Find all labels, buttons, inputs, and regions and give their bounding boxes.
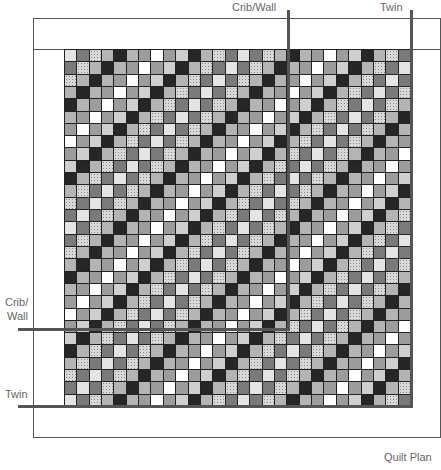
quilt-block [349,124,360,135]
quilt-block [349,222,360,233]
quilt-block [324,148,335,159]
quilt-block [300,62,311,73]
quilt-block [337,161,348,172]
quilt-block [263,50,274,61]
quilt-block [399,321,410,332]
quilt-block [151,173,162,184]
quilt-block [151,136,162,147]
quilt-block [127,75,138,86]
quilt-block [324,222,335,233]
quilt-block [189,136,200,147]
quilt-block [238,210,249,221]
quilt-block [127,222,138,233]
quilt-block [324,136,335,147]
quilt-block [349,136,360,147]
quilt-block [349,296,360,307]
quilt-block [77,247,88,258]
quilt-block [201,173,212,184]
quilt-block [127,272,138,283]
quilt-block [201,247,212,258]
quilt-block [275,296,286,307]
quilt-block [275,272,286,283]
quilt-block [77,370,88,381]
quilt-block [337,370,348,381]
quilt-block [65,235,76,246]
quilt-block [127,345,138,356]
quilt-block [65,87,76,98]
quilt-block [176,345,187,356]
quilt-block [176,75,187,86]
quilt-block [250,296,261,307]
quilt-block [139,50,150,61]
quilt-block [201,198,212,209]
quilt-block [312,124,323,135]
quilt-block [349,235,360,246]
quilt-block [337,210,348,221]
quilt-block [337,235,348,246]
quilt-block [114,345,125,356]
quilt-block [201,185,212,196]
quilt-block [349,370,360,381]
quilt-block [151,112,162,123]
quilt-block [139,75,150,86]
quilt-block [164,124,175,135]
quilt-block [362,222,373,233]
quilt-block [213,173,224,184]
quilt-block [139,235,150,246]
quilt-block [102,370,113,381]
quilt-block [300,272,311,283]
quilt-block [349,87,360,98]
quilt-block [399,124,410,135]
quilt-block [65,382,76,393]
quilt-block [176,185,187,196]
quilt-block [77,345,88,356]
quilt-block [263,75,274,86]
quilt-block [164,345,175,356]
quilt-block [65,259,76,270]
quilt-block [374,321,385,332]
quilt-block [362,136,373,147]
quilt-block [77,185,88,196]
quilt-block [337,247,348,258]
quilt-block [102,259,113,270]
quilt-block [176,198,187,209]
quilt-block [399,50,410,61]
quilt-block [102,296,113,307]
quilt-block [77,99,88,110]
quilt-block [312,358,323,369]
quilt-block [151,370,162,381]
quilt-block [362,247,373,258]
quilt-block [77,75,88,86]
quilt-block [151,333,162,344]
quilt-block [324,161,335,172]
quilt-block [300,284,311,295]
quilt-block [226,62,237,73]
quilt-block [201,124,212,135]
quilt-block [151,198,162,209]
quilt-block [151,99,162,110]
quilt-block [213,222,224,233]
quilt-block [226,222,237,233]
quilt-block [374,345,385,356]
quilt-block [374,124,385,135]
quilt-block [374,136,385,147]
quilt-block [127,247,138,258]
quilt-block [275,235,286,246]
quilt-block [374,235,385,246]
quilt-block [399,210,410,221]
quilt-block [263,198,274,209]
quilt-block [189,382,200,393]
quilt-block [90,75,101,86]
quilt-block [399,247,410,258]
quilt-block [151,309,162,320]
quilt-block [189,259,200,270]
quilt-block [374,75,385,86]
quilt-block [374,259,385,270]
quilt-block [127,382,138,393]
quilt-block [189,112,200,123]
quilt-block [77,333,88,344]
quilt-block [238,161,249,172]
quilt-block [337,50,348,61]
quilt-block [176,210,187,221]
quilt-block [349,309,360,320]
